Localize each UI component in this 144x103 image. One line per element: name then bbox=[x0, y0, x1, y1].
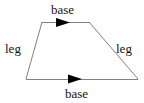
trapezoid-diagram: base base leg leg bbox=[0, 0, 144, 103]
label-base-top: base bbox=[51, 3, 74, 16]
trapezoid-left-leg-line bbox=[26, 22, 42, 79]
bottom-base-arrow-icon bbox=[68, 75, 82, 84]
top-base-arrow-icon bbox=[56, 18, 70, 27]
label-leg-left: leg bbox=[5, 42, 21, 55]
label-leg-right: leg bbox=[116, 42, 132, 55]
label-base-bottom: base bbox=[65, 87, 88, 100]
